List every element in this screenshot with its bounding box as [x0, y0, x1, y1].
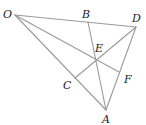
point-label-c: C — [63, 79, 72, 92]
segments — [15, 15, 136, 110]
point-label-b: B — [81, 8, 90, 21]
point-label-o: O — [3, 8, 12, 21]
point-label-a: A — [101, 113, 110, 125]
segment-ba — [88, 22, 106, 110]
point-label-f: F — [123, 73, 132, 86]
geometry-diagram: OBDECFA — [0, 0, 146, 125]
segment-oa — [15, 15, 106, 110]
point-label-e: E — [94, 42, 103, 55]
point-label-d: D — [131, 12, 141, 25]
